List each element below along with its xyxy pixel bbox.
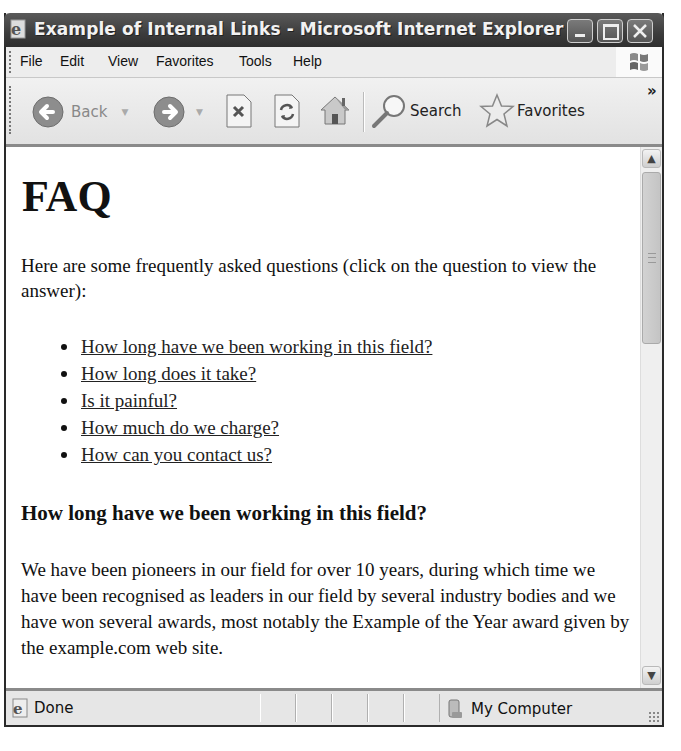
status-panel — [332, 694, 368, 722]
toolbar-overflow-chevron[interactable]: » — [647, 82, 657, 100]
my-computer-icon — [444, 698, 466, 720]
standard-toolbar: Back ▼ ▼ Search Favorites » — [6, 78, 662, 147]
favorites-label: Favorites — [517, 102, 585, 120]
back-button[interactable]: Back ▼ — [31, 95, 128, 129]
chevron-up-icon: ▲ — [647, 152, 655, 165]
list-item: How long have we been working in this fi… — [81, 333, 432, 360]
scroll-down-button[interactable]: ▼ — [642, 666, 661, 685]
menu-edit[interactable]: Edit — [60, 53, 84, 69]
close-button[interactable] — [627, 19, 653, 43]
zone-label: My Computer — [471, 700, 572, 718]
toolbar-separator — [363, 92, 365, 132]
page-title: FAQ — [22, 171, 112, 222]
window-title: Example of Internal Links - Microsoft In… — [34, 19, 563, 39]
chevron-down-icon: ▼ — [647, 669, 655, 682]
search-icon — [370, 93, 408, 129]
search-label: Search — [410, 102, 462, 120]
back-dropdown-icon[interactable]: ▼ — [121, 107, 128, 117]
list-item: How long does it take? — [81, 360, 432, 387]
page-content: FAQ Here are some frequently asked quest… — [6, 147, 640, 688]
svg-text:e: e — [11, 20, 21, 39]
status-message: e Done — [10, 698, 73, 718]
status-panel — [260, 694, 296, 722]
forward-arrow-icon — [152, 95, 186, 129]
search-button[interactable]: Search — [370, 93, 462, 129]
intro-text: Here are some frequently asked questions… — [21, 253, 631, 303]
svg-text:e: e — [13, 700, 23, 718]
list-item: How much do we charge? — [81, 414, 432, 441]
faq-link-charge[interactable]: How much do we charge? — [81, 417, 279, 438]
back-arrow-icon — [31, 95, 65, 129]
minimize-button[interactable] — [567, 19, 593, 43]
windows-logo — [616, 47, 662, 77]
status-panel — [368, 694, 404, 722]
refresh-button[interactable] — [272, 93, 302, 129]
menu-help[interactable]: Help — [293, 53, 322, 69]
menu-favorites[interactable]: Favorites — [156, 53, 214, 69]
page-done-icon: e — [10, 698, 30, 718]
faq-link-contact[interactable]: How can you contact us? — [81, 444, 272, 465]
refresh-icon — [272, 93, 302, 129]
thumb-grip-icon — [648, 253, 656, 263]
home-button[interactable] — [317, 92, 353, 128]
list-item: Is it painful? — [81, 387, 432, 414]
status-text: Done — [34, 699, 73, 717]
list-item: How can you contact us? — [81, 441, 432, 468]
menu-file[interactable]: File — [20, 53, 43, 69]
status-panel — [404, 694, 440, 722]
status-panel — [296, 694, 332, 722]
faq-link-painful[interactable]: Is it painful? — [81, 390, 177, 411]
stop-icon — [224, 93, 254, 129]
menu-bar: File Edit View Favorites Tools Help — [6, 47, 662, 78]
toolbar-grip[interactable] — [9, 86, 13, 134]
maximize-button[interactable] — [597, 19, 623, 43]
scroll-up-button[interactable]: ▲ — [642, 149, 661, 168]
title-bar[interactable]: e Example of Internal Links - Microsoft … — [4, 13, 664, 47]
ie-page-icon: e — [8, 19, 28, 39]
answer-text: We have been pioneers in our field for o… — [21, 557, 631, 661]
favorites-star-icon — [478, 93, 516, 129]
browser-window: e Example of Internal Links - Microsoft … — [4, 13, 664, 727]
faq-link-duration[interactable]: How long does it take? — [81, 363, 256, 384]
favorites-button[interactable]: Favorites — [478, 93, 585, 129]
home-icon — [317, 92, 353, 128]
stop-button[interactable] — [224, 93, 254, 129]
menubar-grip[interactable] — [9, 51, 13, 73]
scroll-thumb[interactable] — [642, 172, 661, 344]
close-icon — [632, 23, 648, 39]
vertical-scrollbar[interactable]: ▲ ▼ — [640, 147, 662, 688]
windows-flag-icon — [628, 51, 650, 73]
status-bar: e Done My Computer — [6, 688, 662, 725]
back-label: Back — [71, 103, 107, 121]
answer-heading: How long have we been working in this fi… — [21, 501, 427, 526]
faq-question-list: How long have we been working in this fi… — [21, 333, 432, 468]
forward-dropdown-icon[interactable]: ▼ — [196, 107, 203, 117]
maximize-icon — [603, 24, 619, 40]
forward-button[interactable]: ▼ — [152, 95, 203, 129]
minimize-icon — [575, 34, 585, 37]
menu-tools[interactable]: Tools — [239, 53, 272, 69]
resize-grip[interactable] — [648, 711, 660, 723]
faq-link-working[interactable]: How long have we been working in this fi… — [81, 336, 432, 357]
security-zone: My Computer — [444, 698, 572, 720]
menu-view[interactable]: View — [108, 53, 138, 69]
